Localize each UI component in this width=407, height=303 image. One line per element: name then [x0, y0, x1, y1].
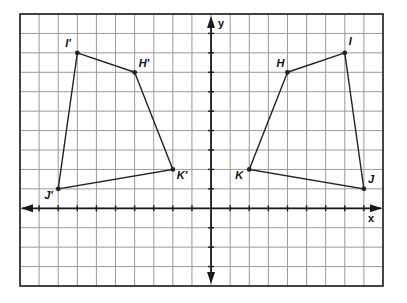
y-axis-label: y [218, 17, 225, 29]
y-axis-arrow-up-icon [207, 16, 215, 28]
vertex-label: J' [44, 189, 53, 201]
vertex-point [342, 50, 347, 55]
vertex-label: H [276, 57, 285, 69]
vertex-point [247, 167, 252, 172]
vertex-point [132, 70, 137, 75]
vertex-point [361, 186, 366, 191]
vertex-label: K' [177, 169, 188, 181]
grid-lines [20, 14, 383, 286]
vertex-point [170, 167, 175, 172]
x-axis-arrow-left-icon [21, 204, 33, 212]
vertex-label: J [368, 173, 375, 185]
vertex-point [75, 50, 80, 55]
y-axis-arrow-down-icon [207, 272, 215, 284]
vertex-label: K [235, 169, 244, 181]
x-axis-label: x [368, 212, 375, 224]
vertex-label: I [349, 35, 353, 47]
vertex-label: I' [65, 37, 71, 49]
coordinate-grid: HIJKH'I'J'K' x y [0, 0, 407, 303]
vertex-label: H' [139, 57, 150, 69]
vertex-point [56, 186, 61, 191]
vertex-point [285, 70, 290, 75]
